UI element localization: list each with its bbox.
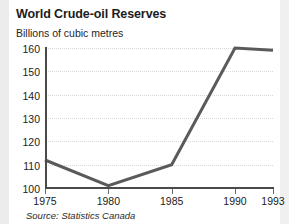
y-axis-unit-label: Billions of cubic metres [16, 27, 123, 39]
y-axis-tick-label: 140 [22, 90, 40, 102]
y-axis-tick-label: 150 [22, 66, 40, 78]
x-axis-line [45, 187, 274, 189]
page-edge-strip-left [0, 0, 9, 224]
chart-figure: World Crude-oil Reserves Billions of cub… [0, 0, 289, 224]
x-axis-tick-label: 1985 [160, 195, 183, 207]
x-axis-tick-label: 1980 [97, 195, 120, 207]
x-axis-tick-mark [45, 189, 46, 194]
y-axis-tick-label: 120 [22, 136, 40, 148]
data-series-line [45, 48, 273, 188]
x-axis-tick-label: 1990 [223, 195, 246, 207]
y-axis-tick-label: 130 [22, 113, 40, 125]
chart-title: World Crude-oil Reserves [16, 7, 166, 21]
x-axis-tick-mark [235, 189, 236, 194]
source-note: Source: Statistics Canada [26, 210, 135, 221]
x-axis-tick-label: 1993 [261, 195, 284, 207]
x-axis-tick-mark [172, 189, 173, 194]
plot-area: 100110120130140150160 [45, 48, 273, 188]
y-axis-tick-label: 100 [22, 183, 40, 195]
page-edge-strip-right [280, 0, 289, 224]
y-axis-tick-label: 160 [22, 43, 40, 55]
y-axis-tick-label: 110 [23, 160, 40, 172]
x-axis-tick-mark [273, 189, 274, 194]
y-axis-line [45, 47, 47, 189]
x-axis-tick-label: 1975 [33, 195, 56, 207]
x-axis-tick-mark [108, 189, 109, 194]
